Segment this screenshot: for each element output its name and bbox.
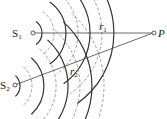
point-p-dot: [152, 31, 156, 35]
interference-diagram: S1 S2 P r1 r2: [0, 0, 167, 119]
wavefront-s2-crest-arc: [48, 40, 69, 119]
wavefront-s2-trough-arc: [40, 49, 57, 119]
wavefront-s1-trough-arc: [57, 0, 78, 74]
wavefront-s1-trough-arc: [70, 0, 102, 94]
source-s2-dot: [13, 83, 17, 87]
path-r1-label: r1: [99, 20, 107, 34]
point-p-label: P: [157, 27, 165, 39]
path-r2-label: r2: [70, 65, 78, 79]
wavefront-s2-crest-arc: [31, 58, 44, 114]
path-r2-line: [15, 33, 153, 85]
source-s2-label: S2: [0, 79, 10, 93]
wavefronts-s2: [15, 13, 104, 119]
source-s1-label: S1: [12, 27, 22, 41]
source-s1-dot: [31, 31, 35, 35]
wavefront-s2-trough-arc: [23, 67, 32, 106]
wavefronts-s1: [36, 0, 114, 103]
wavefront-s1-crest-arc: [77, 0, 114, 103]
